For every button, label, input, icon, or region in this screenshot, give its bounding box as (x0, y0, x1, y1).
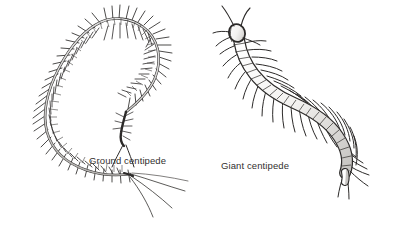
giant-centipede-tail-fill (345, 172, 346, 182)
ground-centipede-label: Ground centipede (89, 155, 166, 166)
centipede-illustration-svg (0, 0, 398, 237)
giant-centipede-label: Giant centipede (221, 160, 289, 171)
centipede-comparison-plate: Ground centipede Giant centipede (0, 0, 398, 237)
